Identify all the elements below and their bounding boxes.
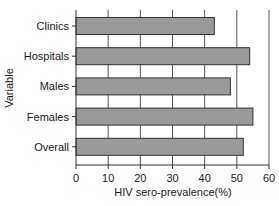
y-axis-title: Variable [3, 68, 15, 108]
category-label: Hospitals [24, 50, 70, 62]
x-tick-label: 60 [263, 172, 275, 184]
y-axis-ticks: ClinicsHospitalsMalesFemalesOverall [24, 20, 76, 153]
category-label: Males [40, 80, 70, 92]
x-tick-label: 20 [134, 172, 146, 184]
category-label: Overall [34, 141, 69, 153]
x-tick-label: 0 [73, 172, 79, 184]
x-axis-title: HIV sero-prevalence(%) [114, 186, 231, 198]
category-label: Clinics [37, 20, 70, 32]
x-tick-label: 40 [199, 172, 211, 184]
bar-chart: ClinicsHospitalsMalesFemalesOverall 0102… [0, 0, 279, 206]
x-tick-label: 50 [231, 172, 243, 184]
bar-males [76, 78, 230, 95]
category-label: Females [27, 111, 70, 123]
x-axis-ticks: 0102030405060 [73, 165, 275, 184]
x-tick-label: 10 [102, 172, 114, 184]
x-tick-label: 30 [166, 172, 178, 184]
bar-clinics [76, 18, 214, 35]
bar-females [76, 108, 253, 125]
bar-overall [76, 138, 243, 155]
bars [76, 18, 253, 156]
bar-hospitals [76, 48, 250, 65]
